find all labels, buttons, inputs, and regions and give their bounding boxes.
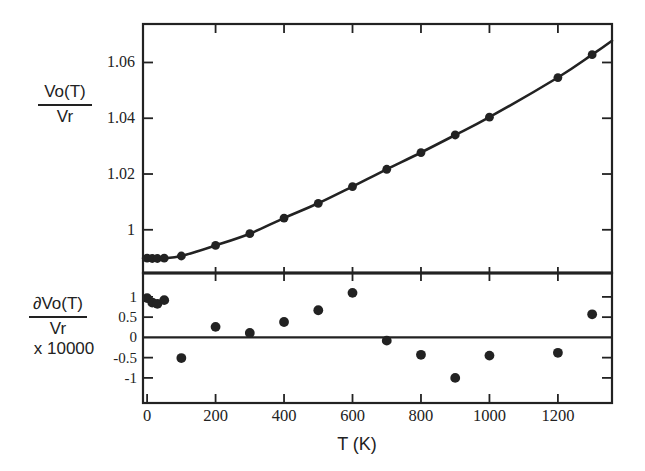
data-point-marker xyxy=(176,353,186,363)
data-point-marker xyxy=(588,50,597,59)
data-point-marker xyxy=(314,199,323,208)
top-data-points xyxy=(143,50,597,263)
top-y-axis-label-numerator: Vo(T) xyxy=(38,83,92,106)
data-point-marker xyxy=(554,73,563,82)
data-point-marker xyxy=(159,295,169,305)
x-ticks xyxy=(147,24,558,403)
data-point-marker xyxy=(280,214,289,223)
x-tick-labels: 020040060080010001200 xyxy=(143,406,574,425)
figure-volume-expansion-plot: 02004006008001000120011.021.041.06-1-0.5… xyxy=(0,0,645,471)
data-point-marker xyxy=(177,252,186,261)
bottom-data-points xyxy=(142,288,597,383)
bottom-y-axis-label: ∂Vo(T) Vr xyxy=(29,295,87,338)
y-tick-label: 1.02 xyxy=(107,165,135,182)
bottom-y-axis-label-multiplier: x 10000 xyxy=(26,339,102,359)
top-y-axis-label-denominator: Vr xyxy=(38,106,92,127)
y-tick-label: 1.04 xyxy=(107,109,135,126)
data-point-marker xyxy=(279,317,289,327)
fit-curve xyxy=(143,41,612,259)
x-tick-label: 800 xyxy=(409,406,434,425)
data-point-marker xyxy=(245,229,254,238)
y-tick-label: 1 xyxy=(127,221,135,238)
data-point-marker xyxy=(485,113,494,122)
data-point-marker xyxy=(416,350,426,360)
x-tick-label: 600 xyxy=(340,406,365,425)
y-tick-label: 0.5 xyxy=(118,309,137,325)
x-tick-label: 1200 xyxy=(541,406,574,425)
data-point-marker xyxy=(382,336,392,346)
data-point-marker xyxy=(348,182,357,191)
x-axis-label: T (K) xyxy=(317,434,397,455)
x-tick-label: 1000 xyxy=(473,406,506,425)
x-tick-label: 0 xyxy=(143,406,151,425)
bottom-y-axis-label-numerator: ∂Vo(T) xyxy=(29,295,87,318)
y-tick-label: -0.5 xyxy=(113,350,137,366)
data-point-marker xyxy=(553,348,563,358)
data-point-marker xyxy=(450,373,460,383)
y-tick-label: 1.06 xyxy=(107,53,135,70)
data-point-marker xyxy=(417,148,426,157)
data-point-marker xyxy=(211,322,221,332)
y-tick-label: 0 xyxy=(130,329,138,345)
y-tick-label: -1 xyxy=(125,370,138,386)
data-point-marker xyxy=(160,254,169,263)
top-y-axis-label: Vo(T) Vr xyxy=(38,83,92,126)
data-point-marker xyxy=(587,309,597,319)
x-tick-label: 400 xyxy=(272,406,297,425)
data-point-marker xyxy=(485,351,495,361)
y-tick-label: 1 xyxy=(130,289,138,305)
data-point-marker xyxy=(348,288,358,298)
data-point-marker xyxy=(382,165,391,174)
data-point-marker xyxy=(245,328,255,338)
chart-canvas: 02004006008001000120011.021.041.06-1-0.5… xyxy=(0,0,645,471)
data-point-marker xyxy=(313,305,323,315)
bottom-y-axis-label-denominator: Vr xyxy=(29,318,87,339)
top-y-ticks: 11.021.041.06 xyxy=(107,53,612,237)
top-panel-frame xyxy=(143,24,612,273)
data-point-marker xyxy=(211,241,220,250)
x-tick-label: 200 xyxy=(203,406,228,425)
plot-frames xyxy=(143,24,612,403)
data-point-marker xyxy=(451,131,460,140)
